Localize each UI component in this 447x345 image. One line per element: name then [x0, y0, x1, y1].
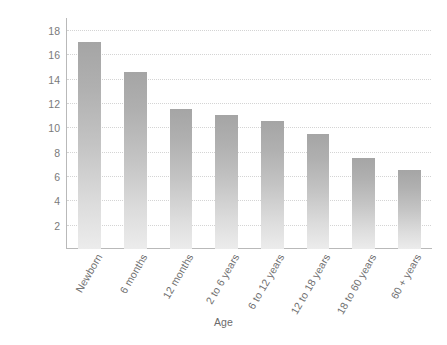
- y-axis-tick-label: 12: [30, 99, 60, 110]
- y-axis-tick-label: 4: [30, 196, 60, 207]
- bars-group: [67, 18, 432, 249]
- y-axis-tick-label: 10: [30, 123, 60, 134]
- x-axis-tick-label: 6 months: [118, 252, 149, 295]
- y-axis-tick-label: 2: [30, 220, 60, 231]
- y-axis-tick-label: 14: [30, 75, 60, 86]
- x-axis-title: Age: [0, 316, 447, 328]
- x-axis-tick-label: Newborn: [73, 252, 103, 294]
- x-axis-tick-label: 18 to 60 years: [335, 252, 378, 316]
- bar: [78, 42, 101, 249]
- bar: [170, 109, 193, 249]
- bar: [215, 115, 238, 249]
- y-axis-tick-label: 16: [30, 50, 60, 61]
- y-axis-tick-label: 18: [30, 26, 60, 37]
- bar: [307, 134, 330, 250]
- x-axis-tick-label: 12 to 18 years: [289, 252, 332, 316]
- x-axis-tick-label: 60 + years: [389, 252, 423, 301]
- x-axis-tick-label: 6 to 12 years: [246, 252, 286, 311]
- plot-area: 24681012141618: [66, 18, 432, 249]
- y-axis-tick-label: 6: [30, 172, 60, 183]
- bar: [261, 121, 284, 249]
- bar: [352, 158, 375, 249]
- x-axis-tick-labels: Newborn6 months12 months2 to 6 years6 to…: [67, 252, 432, 314]
- bar: [398, 170, 421, 249]
- x-axis-tick-label: 2 to 6 years: [204, 252, 241, 306]
- bar-chart: Hours of Sleep 24681012141618 Newborn6 m…: [0, 0, 447, 345]
- y-axis-tick-label: 8: [30, 147, 60, 158]
- x-axis-tick-label: 12 months: [161, 252, 195, 300]
- bar: [124, 72, 147, 250]
